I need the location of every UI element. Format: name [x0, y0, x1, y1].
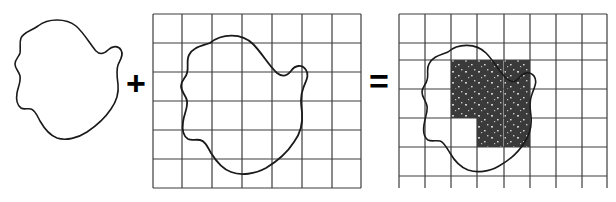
- panel-grid-overlay: [152, 13, 362, 189]
- shaded-cell: [477, 89, 503, 118]
- panel-irregular-shape: [8, 14, 128, 154]
- irregular-shape-svg: [8, 14, 128, 154]
- grid-lines-middle: [153, 14, 361, 188]
- grid-overlay-svg: [152, 13, 362, 189]
- shaded-cell: [504, 118, 530, 147]
- shaded-cell: [477, 60, 503, 89]
- equals-operator: =: [369, 64, 389, 98]
- blob-outline-path-grid: [181, 36, 308, 174]
- shaded-cell: [451, 89, 477, 118]
- shaded-cell: [504, 60, 530, 89]
- counted-cells-svg: [398, 13, 608, 189]
- shaded-cell: [451, 60, 477, 89]
- blob-outline-path: [15, 20, 122, 139]
- shaded-cells-group: [451, 60, 530, 147]
- panel-counted-cells: [398, 13, 608, 189]
- shaded-cell: [477, 118, 503, 147]
- shaded-cell: [504, 89, 530, 118]
- plus-operator: +: [126, 66, 146, 100]
- figure-canvas: + =: [0, 0, 616, 202]
